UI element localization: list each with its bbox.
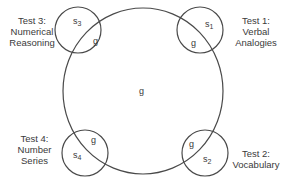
test3-specific: s3	[73, 16, 81, 29]
test2-circle	[182, 130, 228, 176]
test2-title: Test 2:	[227, 148, 285, 159]
test4-title: Test 4:	[12, 133, 57, 144]
test1-label: Test 1: Verbal Analogies	[229, 15, 283, 48]
subscript: 2	[208, 158, 212, 165]
test2-label: Test 2: Vocabulary	[227, 148, 285, 170]
test1-name-line2: Analogies	[229, 37, 283, 48]
test3-title: Test 3:	[5, 15, 59, 26]
test3-name-line1: Numerical	[5, 26, 59, 37]
test2-name-line1: Vocabulary	[227, 159, 285, 170]
test4-name-line1: Number	[12, 144, 57, 155]
test3-general: g	[93, 36, 98, 46]
subscript: 3	[78, 20, 82, 27]
test1-circle	[177, 7, 223, 53]
central-g-label: g	[139, 86, 144, 96]
test4-specific: s4	[73, 150, 81, 163]
test1-general: g	[191, 38, 196, 48]
test2-specific: s2	[203, 154, 211, 167]
test4-general: g	[91, 135, 96, 145]
test1-title: Test 1:	[229, 15, 283, 26]
test3-label: Test 3: Numerical Reasoning	[5, 15, 59, 48]
test1-name-line1: Verbal	[229, 26, 283, 37]
test4-label: Test 4: Number Series	[12, 133, 57, 166]
test4-name-line2: Series	[12, 155, 57, 166]
subscript: 4	[78, 154, 82, 161]
test3-circle	[55, 7, 101, 53]
test1-specific: s1	[205, 19, 213, 32]
test3-name-line2: Reasoning	[5, 37, 59, 48]
subscript: 1	[210, 23, 214, 30]
test4-circle	[62, 130, 108, 176]
test2-general: g	[189, 139, 194, 149]
